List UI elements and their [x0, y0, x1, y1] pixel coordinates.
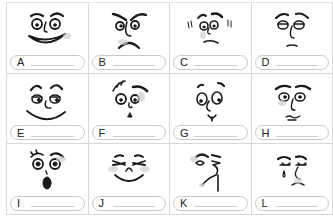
- cell-letter: D: [262, 56, 272, 68]
- disgusted-face-icon: [180, 147, 240, 197]
- cell-letter: I: [17, 197, 27, 209]
- face-cell-l: L: [252, 144, 333, 215]
- face-cell-e: E: [7, 74, 89, 145]
- face-cell-i: I: [7, 144, 89, 215]
- answer-field-a[interactable]: A: [10, 55, 85, 70]
- face-cell-k: K: [170, 144, 252, 215]
- answer-field-d[interactable]: D: [255, 55, 330, 70]
- face-cell-g: G: [170, 74, 252, 145]
- answer-line[interactable]: [194, 206, 237, 207]
- face-cell-d: D: [252, 3, 333, 74]
- answer-line[interactable]: [113, 206, 156, 207]
- laughing-face-icon: [99, 147, 159, 197]
- answer-line[interactable]: [194, 65, 237, 66]
- cell-letter: C: [180, 56, 190, 68]
- face-cell-c: C: [170, 3, 252, 74]
- grinning-face-icon: [17, 6, 77, 56]
- answer-field-j[interactable]: J: [92, 196, 167, 211]
- answer-line[interactable]: [113, 65, 156, 66]
- bored-face-icon: [262, 6, 322, 56]
- answer-field-i[interactable]: I: [10, 196, 85, 211]
- worried-face-icon: [262, 77, 322, 127]
- crying-face-icon: [262, 147, 322, 197]
- astonished-face-icon: [17, 147, 77, 197]
- answer-field-g[interactable]: G: [173, 125, 248, 140]
- cell-letter: F: [99, 127, 109, 139]
- expression-worksheet-grid: A B C: [6, 2, 333, 215]
- answer-field-b[interactable]: B: [92, 55, 167, 70]
- cell-letter: A: [17, 56, 27, 68]
- face-cell-h: H: [252, 74, 333, 145]
- nervous-face-icon: [180, 6, 240, 56]
- shocked-face-icon: [99, 77, 159, 127]
- cell-letter: E: [17, 127, 27, 139]
- cell-letter: B: [99, 56, 109, 68]
- content-face-icon: [17, 77, 77, 127]
- answer-field-f[interactable]: F: [92, 125, 167, 140]
- answer-field-h[interactable]: H: [255, 125, 330, 140]
- angry-face-icon: [99, 6, 159, 56]
- cell-letter: J: [99, 197, 109, 209]
- answer-line[interactable]: [31, 136, 74, 137]
- answer-line[interactable]: [194, 136, 237, 137]
- face-cell-j: J: [89, 144, 171, 215]
- answer-field-c[interactable]: C: [173, 55, 248, 70]
- cell-letter: H: [262, 127, 272, 139]
- face-cell-b: B: [89, 3, 171, 74]
- answer-line[interactable]: [31, 206, 74, 207]
- face-cell-f: F: [89, 74, 171, 145]
- cell-letter: K: [180, 197, 190, 209]
- answer-line[interactable]: [276, 136, 319, 137]
- face-cell-a: A: [7, 3, 89, 74]
- answer-field-e[interactable]: E: [10, 125, 85, 140]
- answer-line[interactable]: [113, 136, 156, 137]
- answer-field-k[interactable]: K: [173, 196, 248, 211]
- surprised-face-icon: [180, 77, 240, 127]
- answer-line[interactable]: [276, 65, 319, 66]
- answer-field-l[interactable]: L: [255, 196, 330, 211]
- answer-line[interactable]: [31, 65, 74, 66]
- answer-line[interactable]: [276, 206, 319, 207]
- cell-letter: G: [180, 127, 190, 139]
- cell-letter: L: [262, 197, 272, 209]
